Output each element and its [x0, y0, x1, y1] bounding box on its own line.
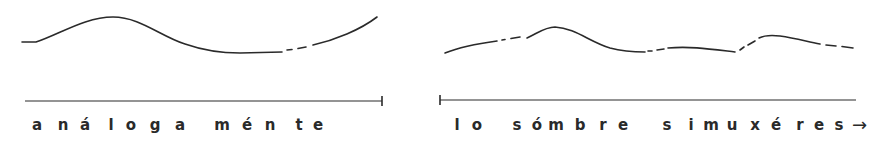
- contour-dash: [842, 47, 853, 49]
- syllable-letter: g: [150, 118, 161, 133]
- syllable-letter: s: [835, 118, 844, 133]
- syllable-letter: á: [80, 118, 90, 133]
- contour-dash: [826, 45, 836, 46]
- syllable-letter: s: [513, 118, 522, 133]
- right-pitch-contour: [445, 27, 853, 53]
- contour-dash: [298, 47, 306, 49]
- syllable-letter: r: [599, 118, 606, 133]
- syllable-letter: m: [703, 118, 719, 133]
- contour-segment: [445, 41, 497, 53]
- contour-dash: [748, 41, 755, 45]
- contour-dash: [511, 37, 520, 39]
- contour-segment: [527, 27, 645, 52]
- syllable-letter: b: [575, 118, 586, 133]
- syllable-letter: o: [126, 118, 136, 133]
- contour-segment: [759, 35, 820, 44]
- syllable-letter: n: [265, 118, 276, 133]
- syllable-letter: é: [242, 118, 252, 133]
- syllable-letter: u: [727, 118, 738, 133]
- syllable-letter: e: [814, 118, 824, 133]
- syllable-letter: ó: [532, 118, 542, 133]
- syllable-letter: e: [618, 118, 628, 133]
- syllable-letter: m: [548, 118, 564, 133]
- syllable-letter: l: [108, 118, 113, 133]
- right-baseline: [440, 95, 856, 105]
- contour-segment: [22, 17, 282, 53]
- syllable-letter: s: [663, 118, 672, 133]
- syllable-letter: e: [313, 118, 323, 133]
- syllable-letter: x: [750, 118, 760, 133]
- syllable-letter: é: [771, 118, 781, 133]
- continuation-arrow-icon: →: [852, 116, 867, 134]
- syllable-letter: a: [175, 118, 185, 133]
- syllable-letter: r: [796, 118, 803, 133]
- syllable-letter: a: [32, 118, 42, 133]
- contour-dash: [740, 47, 744, 50]
- left-pitch-contour: [22, 17, 377, 53]
- contour-dash: [657, 49, 664, 50]
- intonation-diagram: análogaménte losómbresimuxéres →: [0, 0, 893, 145]
- contour-dash: [287, 50, 292, 51]
- contour-segment: [313, 17, 377, 45]
- syllable-letter: t: [295, 118, 302, 133]
- syllable-letter: i: [688, 118, 693, 133]
- syllable-letter: n: [58, 118, 69, 133]
- syllable-letter: m: [214, 118, 230, 133]
- syllable-letter: o: [472, 118, 482, 133]
- contour-dash: [502, 40, 505, 41]
- left-baseline: [25, 96, 382, 106]
- contour-segment: [668, 47, 735, 52]
- syllable-letter: l: [454, 118, 459, 133]
